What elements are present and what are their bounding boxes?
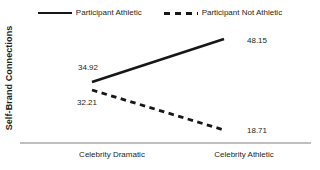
dashed-line-swatch-icon xyxy=(164,12,198,15)
data-label-dashed-left: 32.21 xyxy=(77,98,97,108)
series-line-participant-athletic xyxy=(92,39,224,82)
solid-line-swatch-icon xyxy=(38,12,72,14)
x-axis-tick-labels: Celebrity Dramatic Celebrity Athletic xyxy=(20,149,312,165)
x-tick-label-celebrity-dramatic: Celebrity Dramatic xyxy=(79,149,145,161)
interaction-line-chart: Participant Athletic Participant Not Ath… xyxy=(0,0,320,170)
legend-entry-participant-athletic: Participant Athletic xyxy=(38,8,142,18)
y-axis-title: Self-Brand Connections xyxy=(1,18,17,138)
x-tick-label-celebrity-athletic: Celebrity Athletic xyxy=(214,149,274,161)
y-axis-title-text: Self-Brand Connections xyxy=(4,26,14,131)
legend-label-participant-not-athletic: Participant Not Athletic xyxy=(202,8,282,18)
plot-svg xyxy=(20,20,312,144)
legend-label-participant-athletic: Participant Athletic xyxy=(76,8,142,18)
legend-entry-participant-not-athletic: Participant Not Athletic xyxy=(164,8,282,18)
data-label-solid-right: 48.15 xyxy=(247,36,267,46)
plot-area xyxy=(20,20,312,144)
data-label-solid-left: 34.92 xyxy=(78,63,98,73)
chart-legend: Participant Athletic Participant Not Ath… xyxy=(0,5,320,21)
x-axis-baseline xyxy=(20,142,311,144)
series-line-participant-not-athletic xyxy=(92,90,224,130)
data-label-dashed-right: 18.71 xyxy=(247,126,267,136)
